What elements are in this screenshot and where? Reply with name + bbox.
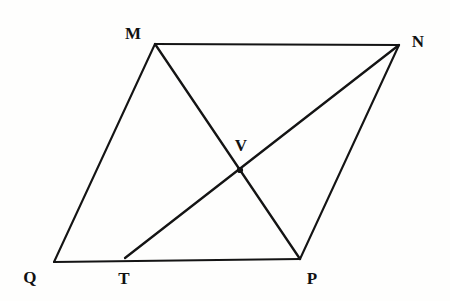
vertex-label-q: Q: [23, 269, 36, 286]
segment-mn: [155, 44, 399, 45]
segment-tn-diagonal: [125, 45, 399, 258]
vertex-label-n: N: [412, 33, 424, 50]
segment-pq: [54, 259, 300, 262]
figure-canvas: [0, 0, 450, 301]
segment-mp-diagonal: [155, 44, 300, 259]
vertex-label-m: M: [125, 25, 141, 42]
geometry-figure: M N P Q T V: [0, 0, 450, 301]
intersection-point-v: [237, 167, 243, 173]
segment-np: [300, 45, 399, 259]
segment-qm: [54, 44, 155, 262]
vertex-label-v: V: [235, 137, 247, 154]
vertex-label-t: T: [118, 270, 130, 287]
vertex-label-p: P: [307, 270, 318, 287]
